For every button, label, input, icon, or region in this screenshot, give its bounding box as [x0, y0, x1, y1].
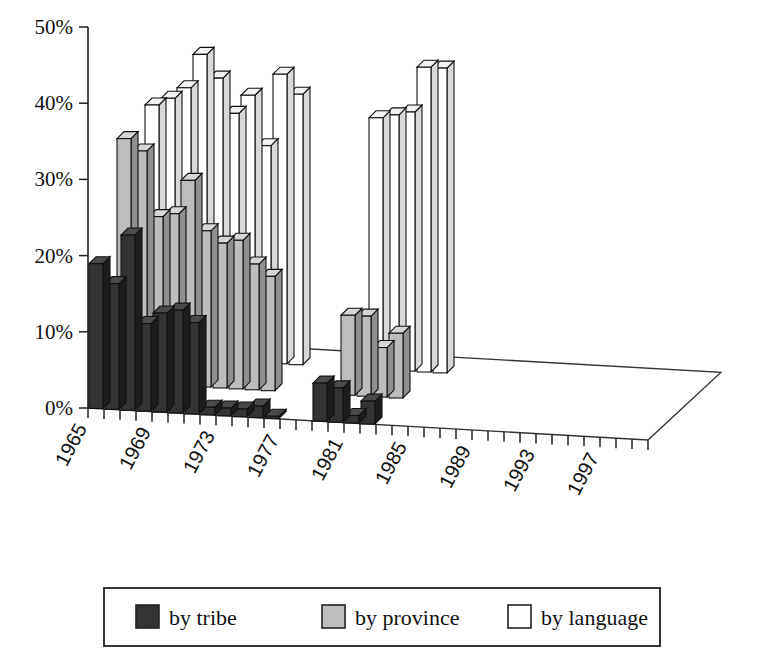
- chart-legend: by tribeby provinceby language: [104, 588, 660, 646]
- legend-white-swatch: [508, 605, 531, 628]
- legend-dark-swatch: [136, 605, 159, 628]
- chart-canvas: 0%10%20%30%40%50% 1965196919731977198119…: [0, 0, 764, 672]
- bar-chart-3d: 0%10%20%30%40%50% 1965196919731977198119…: [0, 0, 764, 672]
- legend-label: by language: [541, 605, 648, 630]
- bar-column: [89, 257, 110, 409]
- y-tick-label: 50%: [35, 15, 74, 39]
- y-tick-label: 40%: [35, 91, 74, 115]
- y-tick-label: 0%: [45, 396, 73, 420]
- legend-label: by province: [355, 605, 459, 630]
- bar-column: [313, 376, 334, 421]
- legend-gray-swatch: [322, 605, 345, 628]
- y-tick-label: 20%: [35, 244, 74, 268]
- y-tick-label: 30%: [35, 167, 74, 191]
- y-tick-label: 10%: [35, 320, 74, 344]
- legend-label: by tribe: [169, 605, 237, 630]
